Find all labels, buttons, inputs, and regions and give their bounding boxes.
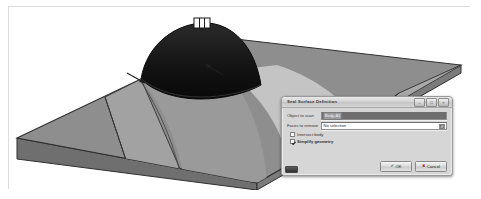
dialog-title: Seal Surface Definition <box>287 99 337 104</box>
simplify-geometry-label: Simplify geometry <box>297 139 333 144</box>
intersect-body-row[interactable]: Intersect body <box>290 132 447 137</box>
minimize-icon[interactable]: – <box>414 98 425 107</box>
intersect-body-label: Intersect body <box>297 132 323 137</box>
dialog-body: Object to scan Body-A1 Faces to remove N… <box>282 108 452 144</box>
dialog-footer: ✔ OK ✖ Cancel <box>380 161 447 172</box>
maximize-icon[interactable]: □ <box>426 98 437 107</box>
object-to-scan-value: Body-A1 <box>323 112 342 120</box>
dome-solid <box>141 23 261 99</box>
face-picker-icon[interactable] <box>439 124 445 130</box>
faces-to-remove-value: No selection <box>322 123 346 128</box>
faces-to-remove-label: Faces to remove <box>287 123 321 128</box>
simplify-geometry-row[interactable]: Simplify geometry <box>290 139 447 144</box>
object-to-scan-label: Object to scan <box>287 113 321 118</box>
faces-to-remove-row: Faces to remove No selection <box>287 122 447 130</box>
ok-button[interactable]: ✔ OK <box>380 161 412 172</box>
window-controls[interactable]: – □ × <box>414 98 449 107</box>
object-to-scan-input[interactable]: Body-A1 <box>321 112 447 120</box>
seal-surface-definition-dialog[interactable]: Seal Surface Definition – □ × Object to … <box>281 96 453 176</box>
dialog-titlebar[interactable]: Seal Surface Definition – □ × <box>282 97 452 108</box>
cancel-button-label: Cancel <box>427 164 440 169</box>
simplify-geometry-checkbox[interactable] <box>290 139 295 144</box>
cross-icon: ✖ <box>422 164 425 168</box>
close-icon[interactable]: × <box>438 98 449 107</box>
object-to-scan-row: Object to scan Body-A1 <box>287 112 447 120</box>
intersect-body-checkbox[interactable] <box>290 132 295 137</box>
figure-frame: Seal Surface Definition – □ × Object to … <box>8 6 470 189</box>
check-icon: ✔ <box>391 164 394 168</box>
dialog-corner-grip[interactable] <box>285 166 298 173</box>
cancel-button[interactable]: ✖ Cancel <box>415 161 447 172</box>
faces-to-remove-input[interactable]: No selection <box>321 122 447 130</box>
ok-button-label: OK <box>395 164 401 169</box>
